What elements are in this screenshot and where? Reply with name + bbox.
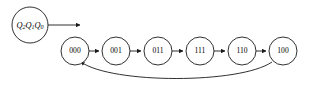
- state-diagram-canvas: Q2Q1Q0 000 001 011: [0, 0, 309, 86]
- state-node-000[interactable]: 000: [61, 37, 89, 65]
- state-node-110[interactable]: 110: [228, 37, 256, 65]
- state-node-011[interactable]: 011: [144, 37, 172, 65]
- state-node-001[interactable]: 001: [102, 37, 130, 65]
- state-node-label: 111: [195, 46, 206, 55]
- state-node-label: 110: [236, 46, 247, 55]
- state-node-100[interactable]: 100: [269, 37, 297, 65]
- state-node-label: 011: [152, 46, 163, 55]
- state-register-legend-label: Q2Q1Q0: [16, 20, 43, 29]
- state-node-label: 100: [277, 46, 289, 55]
- state-diagram-container: Q2Q1Q0 000 001 011: [0, 0, 309, 86]
- state-node-111[interactable]: 111: [186, 37, 214, 65]
- state-node-label: 000: [69, 46, 81, 55]
- state-node-label: 001: [110, 46, 122, 55]
